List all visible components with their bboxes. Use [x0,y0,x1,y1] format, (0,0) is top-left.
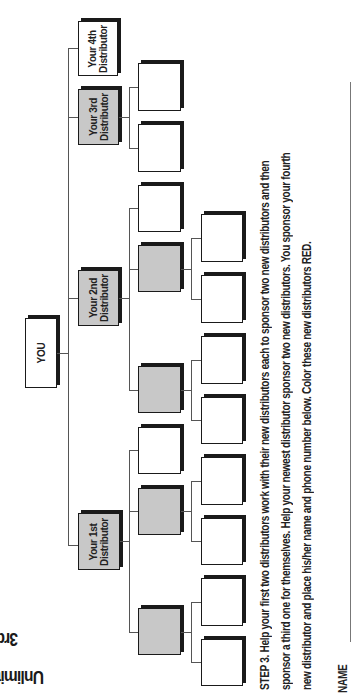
connector [181,269,191,270]
connector [68,48,78,49]
level2-box [138,63,181,111]
connector [129,87,130,149]
connector [57,353,68,354]
connector [191,481,192,542]
connector [129,450,138,451]
title-line-2: Unlimited Width Plan [0,666,44,688]
connector [191,360,192,421]
connector [68,117,78,118]
connector [191,238,201,239]
connector [129,390,138,391]
connector [129,450,130,632]
connector [181,632,191,633]
connector [129,208,130,390]
level3-box [201,457,243,505]
connector [191,420,201,421]
instruction-line-1: STEP 3. Help your first two distributors… [255,136,276,690]
distributor-3-box: Your 3rd Distributor [78,89,119,145]
title-line-1: 3rd GOAL SHEET [0,628,18,650]
connector [191,481,201,482]
level3-box [201,214,243,262]
connector [191,602,192,663]
level2-box [138,488,181,535]
name-field-label: NAME [333,659,352,693]
connector [119,298,129,299]
connector [129,208,138,209]
distributor-3-label: Your 3rd Distributor [88,93,110,141]
level2-box [138,245,181,292]
level2-box [138,124,181,172]
level3-box [201,639,243,686]
instruction-line-2: sponsor a third one for themselves. Help… [276,136,297,690]
connector [68,298,78,299]
level3-box [201,336,243,384]
level2-box [138,427,181,474]
connector [191,238,192,300]
level2-box [138,608,181,655]
instruction-line-3: new distributor and place his/her name a… [297,136,318,690]
distributor-2-label: Your 2nd Distributor [88,274,110,322]
connector [191,299,201,300]
step-instructions: STEP 3. Help your first two distributors… [255,30,318,690]
connector [129,269,138,270]
connector [181,511,191,512]
connector [119,117,129,118]
level3-box [201,397,243,444]
level3-box [201,578,243,626]
connector [191,662,201,663]
connector [129,87,138,88]
connector [191,602,201,603]
name-input-line[interactable] [350,82,351,642]
connector [129,632,138,633]
connector [120,541,129,542]
distributor-4-label: Your 4th Distributor [87,25,109,73]
connector [68,545,78,546]
connector [68,48,69,546]
distributor-2-box: Your 2nd Distributor [78,270,119,326]
level2-box [138,185,181,232]
distributor-4-box: Your 4th Distributor [78,21,118,76]
level2-box [138,366,181,413]
connector [191,360,201,361]
level3-box [201,518,243,565]
connector [191,541,201,542]
connector [181,390,191,391]
distributor-1-box: Your 1st Distributor [78,513,120,570]
connector [129,511,138,512]
root-label: YOU [36,343,47,364]
root-you-box: YOU [25,318,57,388]
distributor-1-label: Your 1st Distributor [88,518,110,566]
connector [129,148,138,149]
level3-box [201,275,243,323]
